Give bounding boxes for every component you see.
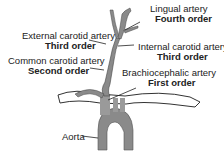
- lingual-artery-order: Fourth order: [155, 14, 212, 24]
- common-carotid-icon: [102, 38, 120, 96]
- artery-diagram: Lingual artery Fourth order External car…: [0, 0, 224, 155]
- aorta-label: Aorta: [62, 132, 85, 142]
- brachiocephalic-vessel: [100, 95, 110, 115]
- common-carotid-order: Second order: [28, 66, 89, 76]
- brachiocephalic-order: First order: [148, 78, 196, 88]
- external-carotid-order: Third order: [45, 41, 96, 51]
- internal-carotid-order: Third order: [157, 52, 208, 62]
